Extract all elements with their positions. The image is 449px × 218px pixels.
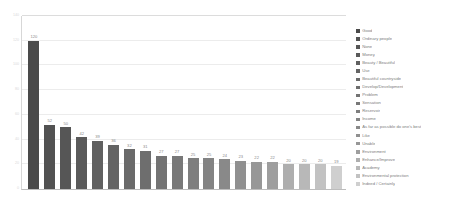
legend-item[interactable]: Beautiful countryside bbox=[356, 75, 449, 83]
bar-slot[interactable]: 42 bbox=[75, 16, 89, 189]
bar-slot[interactable]: 22 bbox=[250, 16, 264, 189]
bar-value-label: 27 bbox=[159, 150, 164, 154]
legend-item-label: Environmental protection bbox=[362, 174, 408, 178]
bar[interactable] bbox=[235, 161, 246, 189]
bar-value-label: 19 bbox=[334, 160, 339, 164]
legend-item[interactable]: Use bbox=[356, 67, 449, 75]
bars-layer: 1205250423936323127272525242322222020201… bbox=[23, 16, 346, 189]
bar-slot[interactable]: 39 bbox=[91, 16, 105, 189]
legend-item[interactable]: None bbox=[356, 43, 449, 51]
bar-slot[interactable]: 19 bbox=[329, 16, 343, 189]
bar-slot[interactable]: 25 bbox=[186, 16, 200, 189]
legend-item-label: Environment bbox=[362, 150, 386, 154]
legend-swatch bbox=[356, 150, 360, 154]
bar[interactable] bbox=[267, 162, 278, 189]
legend-item[interactable]: Sensation bbox=[356, 99, 449, 107]
bar[interactable] bbox=[60, 127, 71, 189]
bar[interactable] bbox=[92, 141, 103, 189]
bar-value-label: 20 bbox=[286, 159, 291, 163]
legend-item[interactable]: Enhance/Improve bbox=[356, 156, 449, 164]
bar[interactable] bbox=[251, 162, 262, 189]
bar[interactable] bbox=[219, 159, 230, 189]
bar-value-label: 50 bbox=[63, 122, 68, 126]
y-axis-tick-label: 40 bbox=[15, 138, 19, 142]
bar-slot[interactable]: 50 bbox=[59, 16, 73, 189]
legend-item[interactable]: Problem bbox=[356, 91, 449, 99]
bar-value-label: 23 bbox=[238, 155, 243, 159]
legend-item[interactable]: Develop/Development bbox=[356, 83, 449, 91]
y-axis-tick-label: 80 bbox=[15, 88, 19, 92]
bar-slot[interactable]: 20 bbox=[282, 16, 296, 189]
bar-value-label: 39 bbox=[95, 135, 100, 139]
bar[interactable] bbox=[108, 145, 119, 189]
legend-item[interactable]: Income bbox=[356, 116, 449, 124]
y-axis-tick-label: 120 bbox=[13, 39, 19, 43]
bar[interactable] bbox=[124, 149, 135, 189]
legend-swatch bbox=[356, 102, 360, 106]
bar-slot[interactable]: 120 bbox=[27, 16, 41, 189]
bar[interactable] bbox=[28, 41, 39, 189]
bar-slot[interactable]: 27 bbox=[154, 16, 168, 189]
bar-value-label: 25 bbox=[191, 153, 196, 157]
bar-slot[interactable]: 36 bbox=[107, 16, 121, 189]
bar[interactable] bbox=[172, 156, 183, 189]
legend-item[interactable]: Money bbox=[356, 51, 449, 59]
legend-item-label: Academy bbox=[362, 166, 379, 170]
bar[interactable] bbox=[315, 164, 326, 189]
bar-value-label: 31 bbox=[143, 145, 148, 149]
legend-swatch bbox=[356, 69, 360, 73]
legend-item[interactable]: Indeed / Certainly bbox=[356, 180, 449, 188]
legend-item[interactable]: Reservoir bbox=[356, 107, 449, 115]
plot-frame: 204060801001201400 120525042393632312727… bbox=[21, 16, 346, 190]
legend-item[interactable]: Ordinary people bbox=[356, 35, 449, 43]
legend-swatch bbox=[356, 53, 360, 57]
bar-slot[interactable]: 27 bbox=[170, 16, 184, 189]
bar-slot[interactable]: 20 bbox=[298, 16, 312, 189]
bar-slot[interactable]: 31 bbox=[138, 16, 152, 189]
legend-item-label: Develop/Development bbox=[362, 85, 403, 89]
legend-item-label: Income bbox=[362, 117, 376, 121]
bar[interactable] bbox=[331, 166, 342, 189]
legend-item-label: Indeed / Certainly bbox=[362, 182, 395, 186]
legend-item[interactable]: Like bbox=[356, 132, 449, 140]
legend-swatch bbox=[356, 45, 360, 49]
bar-chart: 204060801001201400 120525042393632312727… bbox=[0, 0, 449, 218]
legend-item-label: Good bbox=[362, 29, 372, 33]
y-axis-tick-label: 0 bbox=[17, 187, 19, 191]
bar[interactable] bbox=[203, 158, 214, 189]
bar[interactable] bbox=[188, 158, 199, 189]
legend-item[interactable]: Academy bbox=[356, 164, 449, 172]
bar-slot[interactable]: 52 bbox=[43, 16, 57, 189]
legend-item-label: Beauty / Beautiful bbox=[362, 61, 395, 65]
y-axis-tick-label: 60 bbox=[15, 113, 19, 117]
bar[interactable] bbox=[299, 164, 310, 189]
legend-swatch bbox=[356, 29, 360, 33]
bar-slot[interactable]: 23 bbox=[234, 16, 248, 189]
legend-item[interactable]: As far as possible do one's best bbox=[356, 124, 449, 132]
bar-value-label: 42 bbox=[79, 132, 84, 136]
legend-item-label: Problem bbox=[362, 93, 378, 97]
legend-item[interactable]: Good bbox=[356, 27, 449, 35]
legend-item-label: Money bbox=[362, 53, 375, 57]
legend-item-label: Enhance/Improve bbox=[362, 158, 395, 162]
legend-swatch bbox=[356, 158, 360, 162]
bar-slot[interactable]: 20 bbox=[313, 16, 327, 189]
bar[interactable] bbox=[156, 156, 167, 189]
legend-item[interactable]: Environmental protection bbox=[356, 172, 449, 180]
bar[interactable] bbox=[76, 137, 87, 189]
bar-slot[interactable]: 25 bbox=[202, 16, 216, 189]
legend-item-label: Ordinary people bbox=[362, 37, 392, 41]
bar[interactable] bbox=[44, 125, 55, 189]
legend-swatch bbox=[356, 86, 360, 90]
bar-slot[interactable]: 24 bbox=[218, 16, 232, 189]
legend-item[interactable]: Unable bbox=[356, 140, 449, 148]
bar-slot[interactable]: 32 bbox=[123, 16, 137, 189]
bar[interactable] bbox=[283, 164, 294, 189]
bar[interactable] bbox=[140, 151, 151, 189]
legend-item[interactable]: Environment bbox=[356, 148, 449, 156]
y-axis-tick-label: 100 bbox=[13, 64, 19, 68]
legend-swatch bbox=[356, 94, 360, 98]
legend-swatch bbox=[356, 37, 360, 41]
bar-slot[interactable]: 22 bbox=[266, 16, 280, 189]
legend-item[interactable]: Beauty / Beautiful bbox=[356, 59, 449, 67]
